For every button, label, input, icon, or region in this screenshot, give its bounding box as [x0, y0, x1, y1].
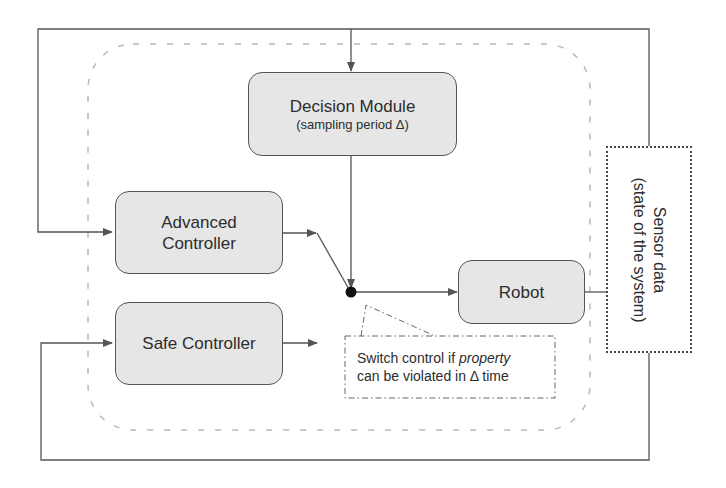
switch-junction-dot: [346, 287, 357, 298]
callout-line1-prefix: Switch control if: [357, 350, 459, 366]
safe-controller-title: Safe Controller: [142, 333, 255, 354]
safe-controller-node: Safe Controller: [115, 302, 283, 385]
advanced-controller-node: Advanced Controller: [115, 191, 283, 274]
decision-module-node: Decision Module (sampling period Δ): [248, 72, 457, 156]
decision-module-title: Decision Module: [290, 96, 416, 117]
decision-module-subtitle: (sampling period Δ): [296, 117, 409, 133]
sensor-data-node: Sensor data (state of the system): [606, 146, 692, 353]
advanced-controller-line2: Controller: [162, 233, 236, 254]
callout-line1: Switch control if property: [357, 349, 555, 367]
sensor-data-label: Sensor data (state of the system): [629, 146, 669, 353]
sensor-data-line1: Sensor data: [649, 146, 669, 353]
callout-line2: can be violated in Δ time: [357, 367, 555, 385]
advanced-controller-line1: Advanced: [161, 212, 237, 233]
switch-condition-callout: Switch control if property can be violat…: [345, 336, 555, 398]
robot-title: Robot: [499, 282, 544, 303]
callout-property-emphasis: property: [459, 350, 510, 366]
callout-pointer: [361, 305, 435, 336]
switch-arm-line: [317, 233, 350, 291]
sensor-data-line2: (state of the system): [629, 146, 649, 353]
robot-node: Robot: [458, 260, 585, 324]
